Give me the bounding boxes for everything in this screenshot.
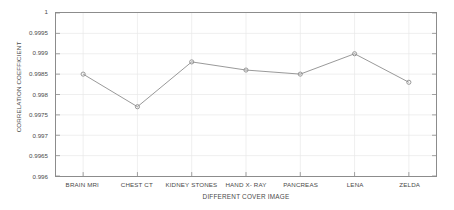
y-axis-tick-labels: 10.99950.9990.99850.9980.99750.9970.9965… bbox=[0, 12, 52, 177]
x-axis-title: DIFFERENT COVER IMAGE bbox=[55, 193, 437, 200]
x-axis-tick-label: CHEST CT bbox=[121, 180, 153, 189]
y-axis-tick-label: 0.999 bbox=[0, 49, 48, 57]
x-axis-tick-label: HAND X- RAY bbox=[225, 180, 266, 189]
y-axis-tick-label: 0.9995 bbox=[0, 29, 48, 37]
y-axis-tick-label: 0.997 bbox=[0, 132, 48, 140]
x-axis-tick-label: LENA bbox=[347, 180, 364, 189]
y-axis-tick-label: 1 bbox=[0, 8, 48, 16]
y-axis-tick-label: 0.9975 bbox=[0, 111, 48, 119]
y-axis-tick-label: 0.9985 bbox=[0, 70, 48, 78]
data-line bbox=[83, 54, 409, 107]
data-series-layer bbox=[56, 13, 436, 176]
plot-area bbox=[55, 12, 437, 177]
x-axis-tick-label: PANCREAS bbox=[283, 180, 318, 189]
y-axis-tick-label: 0.998 bbox=[0, 91, 48, 99]
y-axis-tick-label: 0.9965 bbox=[0, 152, 48, 160]
x-axis-tick-label: ZELDA bbox=[399, 180, 420, 189]
x-axis-tick-label: BRAIN MRI bbox=[66, 180, 99, 189]
y-axis-tick-label: 0.996 bbox=[0, 173, 48, 181]
x-axis-tick-label: KIDNEY STONES bbox=[165, 180, 217, 189]
chart-figure: CORRELATION COEFFICIENT 10.99950.9990.99… bbox=[0, 0, 454, 210]
x-axis-tick-labels: BRAIN MRICHEST CTKIDNEY STONESHAND X- RA… bbox=[55, 180, 437, 190]
